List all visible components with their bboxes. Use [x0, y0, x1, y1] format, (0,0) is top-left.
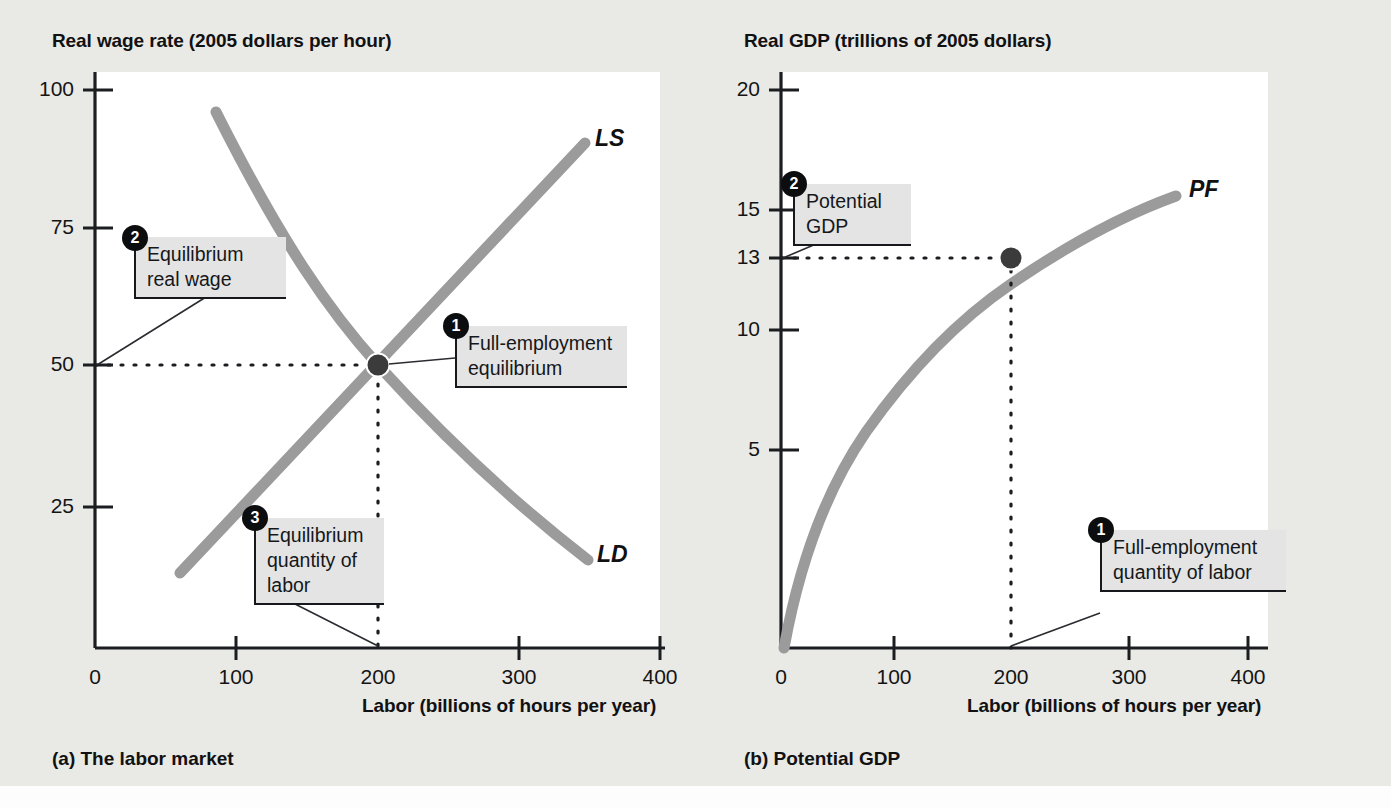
- y-tick-label-a-100: 100: [2, 77, 74, 101]
- leader-line-callout-1: [389, 358, 455, 364]
- leader-line-callout-1-b: [1011, 613, 1100, 646]
- x-tick-label-a-300: 300: [489, 665, 549, 689]
- x-tick-label-b-0: 0: [751, 665, 811, 689]
- y-tick-label-b-10: 10: [696, 317, 760, 341]
- x-tick-label-a-100: 100: [206, 665, 266, 689]
- panel-labor-market: Real wage rate (2005 dollars per hour): [0, 0, 695, 808]
- panel-caption-a: (a) The labor market: [52, 748, 234, 770]
- x-axis-title-panel-b: Labor (billions of hours per year): [967, 695, 1261, 717]
- callout-badge-1: 1: [443, 313, 469, 339]
- potential-gdp-point-marker: [1000, 247, 1023, 270]
- x-axis-title-panel-a: Labor (billions of hours per year): [362, 695, 656, 717]
- y-tick-label-b-13: 13: [696, 245, 760, 269]
- x-tick-label-a-400: 400: [630, 665, 690, 689]
- x-tick-label-b-200: 200: [981, 665, 1041, 689]
- y-tick-label-a-50: 50: [2, 352, 74, 376]
- panel-caption-b: (b) Potential GDP: [744, 748, 900, 770]
- y-tick-label-b-20: 20: [696, 77, 760, 101]
- callout-equilibrium-real-wage: Equilibrium real wage: [134, 237, 286, 299]
- y-tick-label-b-15: 15: [696, 197, 760, 221]
- callout-equilibrium-quantity-of-labor: Equilibrium quantity of labor: [254, 518, 384, 605]
- y-tick-label-a-75: 75: [2, 215, 74, 239]
- figure-container: Real wage rate (2005 dollars per hour): [0, 0, 1391, 808]
- callout-badge-1-b: 1: [1088, 517, 1114, 543]
- x-tick-label-a-200: 200: [348, 665, 408, 689]
- callout-full-employment-equilibrium: Full-employment equilibrium: [455, 326, 627, 388]
- x-tick-label-a-0: 0: [65, 665, 125, 689]
- leader-line-callout-2: [97, 297, 206, 365]
- curve-label-ld: LD: [597, 541, 628, 568]
- y-tick-label-a-25: 25: [2, 494, 74, 518]
- x-tick-label-b-100: 100: [864, 665, 924, 689]
- leader-line-callout-3: [295, 604, 378, 646]
- callout-badge-3: 3: [242, 505, 268, 531]
- callout-full-employment-quantity-of-labor: Full-employment quantity of labor: [1100, 530, 1286, 592]
- callout-potential-gdp: Potential GDP: [793, 184, 911, 246]
- equilibrium-point-marker: [367, 354, 390, 377]
- curve-label-ls: LS: [595, 125, 624, 152]
- y-tick-label-b-5: 5: [696, 437, 760, 461]
- x-tick-label-b-300: 300: [1099, 665, 1159, 689]
- callout-badge-2: 2: [122, 225, 148, 251]
- panel-potential-gdp: Real GDP (trillions of 2005 dollars): [696, 0, 1391, 808]
- x-tick-label-b-400: 400: [1218, 665, 1278, 689]
- curve-label-pf: PF: [1189, 176, 1218, 203]
- callout-badge-2-b: 2: [781, 171, 807, 197]
